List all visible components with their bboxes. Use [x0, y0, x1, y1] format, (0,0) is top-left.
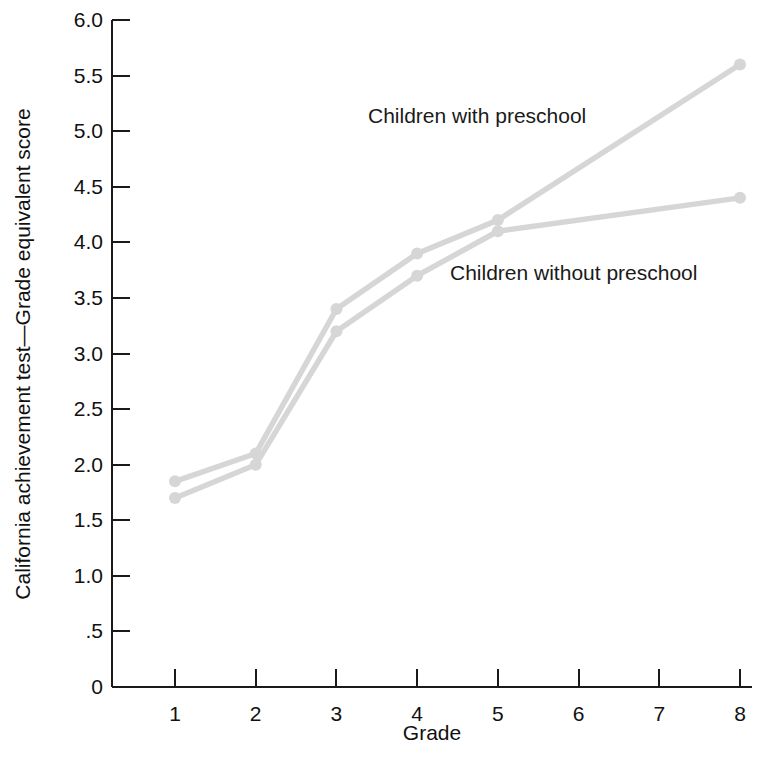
y-tick-label: 3.5 — [74, 286, 103, 309]
line-chart: 0.51.01.52.02.53.03.54.04.55.05.56.0 123… — [0, 0, 766, 761]
x-tick-label: 6 — [573, 702, 585, 725]
y-tick-label: .5 — [85, 619, 103, 642]
x-tick-label: 2 — [250, 702, 262, 725]
annotation-label-1: Children without preschool — [450, 261, 697, 284]
y-axis-ticks — [112, 20, 130, 687]
series-point-1-4 — [492, 225, 504, 237]
x-tick-label: 1 — [169, 702, 181, 725]
series-point-0-5 — [734, 58, 746, 70]
series-point-0-3 — [411, 247, 423, 259]
series-point-0-0 — [169, 475, 181, 487]
series-point-0-1 — [250, 448, 262, 460]
y-tick-label: 2.5 — [74, 397, 103, 420]
annotation-label-0: Children with preschool — [368, 104, 586, 127]
series-point-1-0 — [169, 492, 181, 504]
x-tick-label: 7 — [653, 702, 665, 725]
y-tick-label: 1.5 — [74, 508, 103, 531]
series-point-1-1 — [250, 459, 262, 471]
y-tick-label: 5.5 — [74, 64, 103, 87]
x-axis-title: Grade — [403, 721, 461, 744]
y-tick-label: 4.0 — [74, 230, 103, 253]
x-tick-label: 8 — [734, 702, 746, 725]
chart-figure: 0.51.01.52.02.53.03.54.04.55.05.56.0 123… — [0, 0, 766, 761]
series-point-1-5 — [734, 192, 746, 204]
y-tick-label: 1.0 — [74, 564, 103, 587]
x-axis-ticks — [175, 669, 740, 687]
y-tick-label: 2.0 — [74, 453, 103, 476]
y-tick-label: 4.5 — [74, 175, 103, 198]
y-tick-label: 6.0 — [74, 8, 103, 31]
series-point-0-2 — [330, 303, 342, 315]
x-tick-label: 5 — [492, 702, 504, 725]
y-axis-tick-labels: 0.51.01.52.02.53.03.54.04.55.05.56.0 — [74, 8, 103, 698]
y-tick-label: 5.0 — [74, 119, 103, 142]
series-point-1-2 — [330, 325, 342, 337]
series-point-1-3 — [411, 270, 423, 282]
x-tick-label: 3 — [331, 702, 343, 725]
y-tick-label: 3.0 — [74, 342, 103, 365]
series-point-0-4 — [492, 214, 504, 226]
y-axis-title: California achievement test—Grade equiva… — [11, 108, 34, 599]
y-tick-label: 0 — [91, 675, 103, 698]
